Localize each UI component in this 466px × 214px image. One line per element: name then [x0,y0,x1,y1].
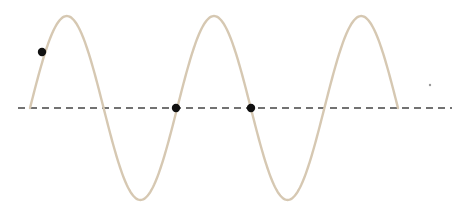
sine-wave-diagram [0,0,466,214]
marked-points [38,48,255,112]
point-dot [247,104,255,112]
point-dot [38,48,46,56]
point-dot [172,104,180,112]
stray-mark [429,84,431,86]
